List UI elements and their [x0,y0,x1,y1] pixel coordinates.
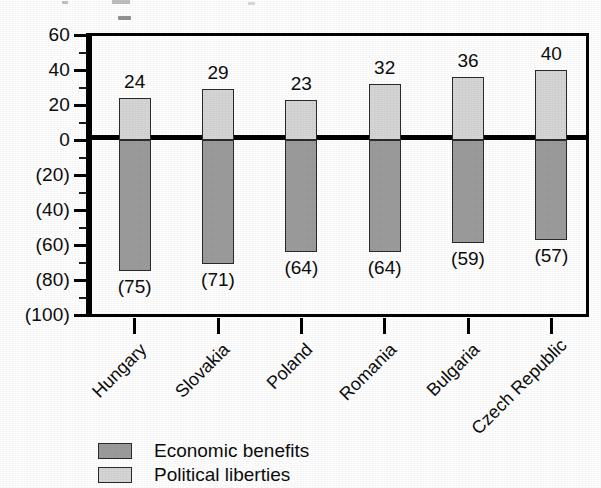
bar-value-label-negative: (75) [90,277,180,297]
x-axis-tick [383,318,386,334]
legend-item[interactable]: Political liberties [98,464,309,486]
bar-value-label-negative: (59) [423,249,513,269]
legend-label: Economic benefits [154,441,309,461]
y-axis-tick [74,279,87,282]
bar-value-label-negative: (57) [506,246,596,266]
y-axis-minor-tick [79,297,87,299]
bar-group[interactable] [369,0,401,284]
y-axis-tick [74,174,87,177]
y-axis-tick [74,104,87,107]
y-axis-tick-label: 60 [2,25,70,44]
legend-item[interactable]: Economic benefits [98,440,309,462]
bar-value-label-positive: 24 [90,72,180,92]
bar-group[interactable] [285,0,317,284]
bar-economic-benefits[interactable] [202,140,234,264]
y-axis-tick-label: (40) [2,200,70,219]
bar-group[interactable] [119,0,151,284]
y-axis-tick [74,139,87,142]
bar-economic-benefits[interactable] [535,140,567,240]
y-axis-minor-tick [79,192,87,194]
legend-swatch-icon [98,443,132,459]
x-axis-category-label: Czech Republic [468,340,566,438]
bar-value-label-negative: (64) [340,258,430,278]
bar-value-label-positive: 29 [173,63,263,83]
y-axis-tick [74,34,87,37]
y-axis-minor-tick [79,87,87,89]
chart-legend: Economic benefitsPolitical liberties [98,440,309,488]
y-axis-minor-tick [79,122,87,124]
y-axis-minor-tick [79,262,87,264]
y-axis-minor-tick [79,52,87,54]
x-axis-tick [550,318,553,334]
bar-economic-benefits[interactable] [369,140,401,252]
bar-chart: 6040200(20)(40)(60)(80)(100) 24(75)29(71… [0,0,601,488]
bar-political-liberties[interactable] [285,100,317,140]
bar-economic-benefits[interactable] [285,140,317,252]
y-axis-tick [74,244,87,247]
y-axis-tick-label: 40 [2,60,70,79]
bar-political-liberties[interactable] [452,77,484,140]
bar-value-label-positive: 36 [423,51,513,71]
bar-group[interactable] [452,0,484,284]
bar-economic-benefits[interactable] [119,140,151,271]
bar-value-label-negative: (71) [173,270,263,290]
y-axis-tick-label: (80) [2,270,70,289]
y-axis-tick-label: (100) [2,305,70,324]
legend-label: Political liberties [154,465,290,485]
legend-swatch-icon [98,467,132,483]
bar-group[interactable] [202,0,234,284]
x-axis-tick [300,318,303,334]
y-axis-tick-label: (60) [2,235,70,254]
bar-value-label-positive: 32 [340,58,430,78]
bar-political-liberties[interactable] [535,70,567,140]
y-axis-tick [74,209,87,212]
x-axis-tick [217,318,220,334]
x-axis-tick [133,318,136,334]
y-axis-minor-tick [79,157,87,159]
bar-political-liberties[interactable] [119,98,151,140]
y-axis-tick [74,314,87,317]
bar-value-label-positive: 40 [506,44,596,64]
y-axis-tick-label: 20 [2,95,70,114]
zero-baseline [89,135,589,140]
bar-value-label-negative: (64) [256,258,346,278]
bar-political-liberties[interactable] [369,84,401,140]
y-axis-tick-label: 0 [2,130,70,149]
bar-political-liberties[interactable] [202,89,234,140]
bar-economic-benefits[interactable] [452,140,484,243]
y-axis-tick [74,69,87,72]
y-axis-tick-label: (20) [2,165,70,184]
bar-value-label-positive: 23 [256,74,346,94]
y-axis-minor-tick [79,227,87,229]
x-axis-tick [467,318,470,334]
